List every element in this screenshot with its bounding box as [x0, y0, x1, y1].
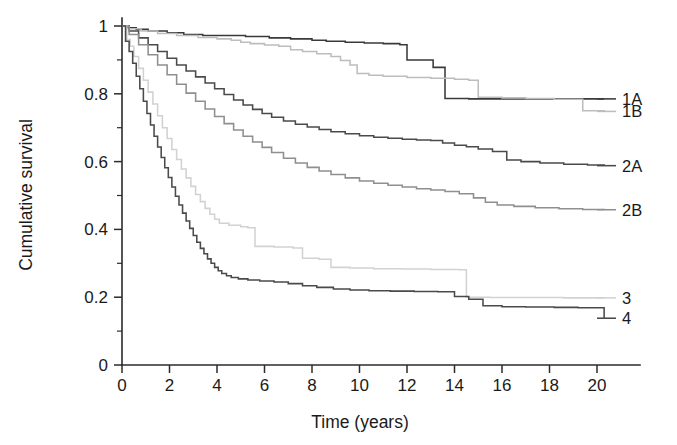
x-tick-label: 12	[398, 376, 417, 395]
survival-curve-2a	[122, 26, 604, 166]
series-label-1b: 1B	[622, 102, 642, 120]
y-tick-label: 0.8	[84, 85, 108, 104]
chart-canvas: 00.20.40.60.81 02468101214161820 1A1B2A2…	[0, 0, 677, 445]
y-tick-label: 0.6	[84, 153, 108, 172]
x-tick-label: 8	[307, 376, 316, 395]
survival-curve-1b	[122, 26, 604, 111]
survival-curve-1a	[122, 26, 604, 99]
survival-chart-figure: 00.20.40.60.81 02468101214161820 1A1B2A2…	[0, 0, 677, 445]
x-tick-label: 18	[540, 376, 559, 395]
x-tick-label: 0	[117, 376, 126, 395]
y-tick-label: 0	[99, 356, 108, 375]
x-tick-label: 2	[165, 376, 174, 395]
series-legend: 1A1B2A2B34	[597, 90, 642, 327]
y-axis: 00.20.40.60.81	[84, 17, 122, 375]
series-label-2a: 2A	[622, 157, 642, 175]
y-tick-label: 1	[99, 17, 108, 36]
survival-curves	[122, 26, 604, 318]
x-tick-label: 6	[260, 376, 269, 395]
x-tick-label: 20	[588, 376, 607, 395]
x-tick-label: 16	[493, 376, 512, 395]
x-axis: 02468101214161820	[117, 365, 640, 395]
series-label-3: 3	[622, 289, 631, 307]
y-axis-title: Cumulative survival	[16, 119, 36, 271]
survival-curve-2b	[122, 26, 604, 210]
y-tick-label: 0.2	[84, 288, 108, 307]
series-label-4: 4	[622, 309, 631, 327]
y-tick-label: 0.4	[84, 220, 108, 239]
x-tick-label: 4	[212, 376, 221, 395]
x-tick-label: 14	[445, 376, 464, 395]
survival-curve-4	[122, 26, 604, 318]
x-tick-label: 10	[350, 376, 369, 395]
series-label-2b: 2B	[622, 201, 642, 219]
x-axis-title: Time (years)	[311, 412, 409, 432]
